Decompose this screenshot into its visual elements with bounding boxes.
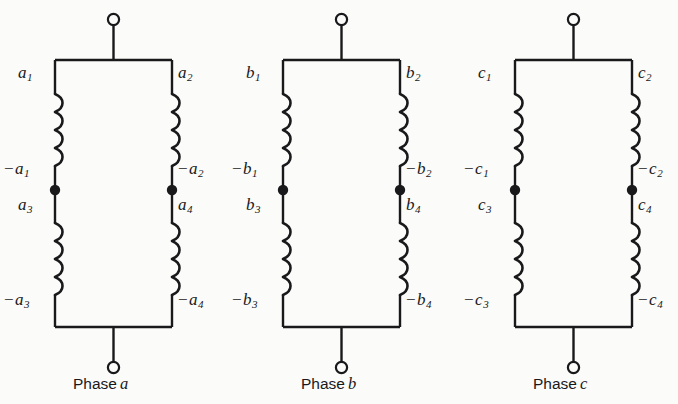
- phase-b-caption: Phaseb: [301, 376, 356, 393]
- circuit-drawing: [0, 0, 678, 404]
- phase-b-label-bottom-left-negative: −b3: [232, 291, 258, 310]
- phase-c-label-top-left: c1: [478, 64, 492, 83]
- phase-a-label-top-left: a1: [18, 64, 33, 83]
- phase-b-schematic: [278, 14, 408, 373]
- phase-c-label-mid-left-negative: −c1: [464, 160, 489, 179]
- phase-a-label-bottom-left-negative: −a3: [4, 291, 30, 310]
- phase-b-label-lower-left: b3: [246, 196, 261, 215]
- phase-c-label-top-right: c2: [638, 64, 652, 83]
- phase-c-label-mid-right-negative: −c2: [638, 160, 663, 179]
- phase-a-label-lower-right: a4: [178, 196, 193, 215]
- phase-c-label-lower-left: c3: [478, 196, 492, 215]
- phase-a-label-lower-left: a3: [18, 196, 33, 215]
- figure-canvas: a1 a2 −a1 −a2 a3 a4 −a3 −a4 Phasea b1 b2…: [0, 0, 678, 404]
- phase-b-label-mid-left-negative: −b1: [232, 160, 258, 179]
- phase-c-label-lower-right: c4: [638, 196, 652, 215]
- phase-a-label-mid-left-negative: −a1: [4, 160, 30, 179]
- phase-a-caption: Phasea: [73, 376, 128, 393]
- phase-c-schematic: [510, 14, 640, 373]
- phase-a-label-top-right: a2: [178, 64, 193, 83]
- phase-b-label-top-right: b2: [406, 64, 421, 83]
- phase-a-label-bottom-right-negative: −a4: [178, 291, 204, 310]
- phase-c-label-bottom-right-negative: −c4: [638, 291, 663, 310]
- phase-b-label-mid-right-negative: −b2: [406, 160, 432, 179]
- phase-c-label-bottom-left-negative: −c3: [464, 291, 489, 310]
- phase-b-label-bottom-right-negative: −b4: [406, 291, 432, 310]
- phase-a-label-mid-right-negative: −a2: [178, 160, 204, 179]
- phase-b-label-top-left: b1: [246, 64, 261, 83]
- phase-a-schematic: [50, 14, 180, 373]
- phase-b-label-lower-right: b4: [406, 196, 421, 215]
- phase-c-caption: Phasec: [533, 376, 587, 393]
